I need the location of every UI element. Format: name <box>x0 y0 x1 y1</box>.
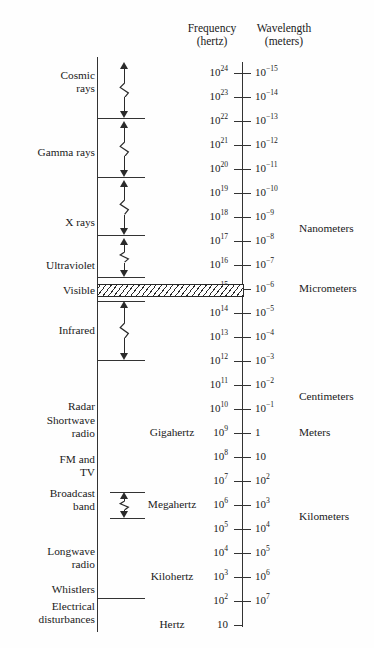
arrow-head-down <box>120 170 128 177</box>
band-separator <box>97 118 145 119</box>
wavelength-tick-label: 10−3 <box>255 354 301 366</box>
frequency-axis-tick <box>234 505 242 506</box>
electromagnetic-spectrum-diagram: Frequency (hertz) Wavelength (meters) 10… <box>0 0 374 648</box>
wavelength-axis-tick <box>243 553 251 554</box>
extent-arrow <box>118 238 131 277</box>
band-separator <box>97 177 145 178</box>
frequency-tick-label: 1019 <box>184 186 228 198</box>
frequency-axis-tick <box>234 265 242 266</box>
wavelength-tick-label: 10 <box>255 450 301 462</box>
frequency-header-unit: (hertz) <box>178 35 246 48</box>
arrow-head-down <box>120 353 128 360</box>
arrow-head-up <box>120 180 128 187</box>
visible-light-band <box>97 284 244 297</box>
frequency-axis-tick <box>234 241 242 242</box>
frequency-tick-label: 1014 <box>184 306 228 318</box>
frequency-unit-gigahertz: Gigahertz <box>131 426 213 438</box>
arrow-head-down <box>120 111 128 118</box>
wavelength-tick-label: 10−1 <box>255 402 301 414</box>
wavelength-tick-label: 102 <box>255 474 301 486</box>
extent-arrow <box>118 180 131 235</box>
frequency-tick-label: 1021 <box>184 138 228 150</box>
wavelength-tick-label: 107 <box>255 594 301 606</box>
wavelength-tick-label: 10−8 <box>255 234 301 246</box>
wavelength-axis-tick <box>243 169 251 170</box>
wavelength-tick-label: 105 <box>255 546 301 558</box>
wavelength-unit-centimeters: Centimeters <box>299 390 354 402</box>
wavelength-tick-label: 10−14 <box>255 90 301 102</box>
frequency-axis-tick <box>234 193 242 194</box>
band-label-cosmic-rays: Cosmicrays <box>60 69 95 94</box>
wavelength-unit-nanometers: Nanometers <box>299 222 354 234</box>
wavelength-axis-tick <box>243 97 251 98</box>
wavelength-tick-label: 10−11 <box>255 162 301 174</box>
band-label-electrical-disturbances: Electricaldisturbances <box>39 600 95 625</box>
extent-arrow <box>118 121 131 177</box>
wavelength-tick-label: 10−12 <box>255 138 301 150</box>
frequency-axis-tick <box>234 97 242 98</box>
wavelength-tick-label: 106 <box>255 570 301 582</box>
frequency-axis-tick <box>234 169 242 170</box>
frequency-tick-label: 1012 <box>184 354 228 366</box>
wavelength-header-label: Wavelength <box>257 22 312 34</box>
wavelength-tick-label: 10−9 <box>255 210 301 222</box>
band-label-radar: Radar <box>68 400 95 413</box>
frequency-tick-label: 1020 <box>184 162 228 174</box>
wavelength-header-unit: (meters) <box>247 35 321 48</box>
wavelength-tick-label: 10−2 <box>255 378 301 390</box>
frequency-tick-label: 1011 <box>184 378 228 390</box>
wavelength-axis-tick <box>243 313 251 314</box>
frequency-unit-megahertz: Megahertz <box>131 498 213 510</box>
frequency-tick-label: 104 <box>184 546 228 558</box>
frequency-axis-tick <box>234 625 242 626</box>
wavelength-axis-tick <box>243 385 251 386</box>
frequency-axis-tick <box>234 433 242 434</box>
frequency-axis-tick <box>234 145 242 146</box>
wavelength-tick-label: 10−4 <box>255 330 301 342</box>
band-separator <box>97 360 145 361</box>
frequency-column-header: Frequency (hertz) <box>178 22 246 48</box>
wavelength-tick-label: 1 <box>255 426 301 438</box>
wavelength-tick-label: 104 <box>255 522 301 534</box>
wavelength-tick-label: 103 <box>255 498 301 510</box>
arrow-head-up <box>120 62 128 69</box>
frequency-axis-tick <box>234 481 242 482</box>
frequency-axis-tick <box>234 313 242 314</box>
frequency-tick-label: 1017 <box>184 234 228 246</box>
arrow-head-up <box>120 492 128 499</box>
frequency-tick-label: 1024 <box>184 66 228 78</box>
wavelength-tick-label: 10−5 <box>255 306 301 318</box>
wavelength-unit-micrometers: Micrometers <box>299 282 357 294</box>
wavelength-axis-tick <box>243 289 251 290</box>
arrow-head-down <box>120 511 128 518</box>
wavelength-axis-tick <box>243 73 251 74</box>
band-label-x-rays: X rays <box>65 216 95 229</box>
wavelength-axis-tick <box>243 145 251 146</box>
band-label-gamma-rays: Gamma rays <box>38 146 95 159</box>
wavelength-axis-tick <box>243 337 251 338</box>
band-label-visible: Visible <box>63 284 95 297</box>
frequency-tick-label: 1013 <box>184 330 228 342</box>
band-column-rule <box>97 57 98 632</box>
frequency-tick-label: 1022 <box>184 114 228 126</box>
band-label-longwave-radio: Longwaveradio <box>47 545 95 570</box>
frequency-tick-label: 102 <box>184 594 228 606</box>
frequency-tick-label: 108 <box>184 450 228 462</box>
frequency-axis-tick <box>234 529 242 530</box>
wavelength-tick-label: 10−6 <box>255 282 301 294</box>
band-label-ultraviolet: Ultraviolet <box>46 259 95 272</box>
frequency-axis-tick <box>234 553 242 554</box>
arrow-head-down <box>120 228 128 235</box>
frequency-tick-label: 1023 <box>184 90 228 102</box>
frequency-tick-label: 1018 <box>184 210 228 222</box>
frequency-unit-kilohertz: Kilohertz <box>131 570 213 582</box>
wavelength-axis-tick <box>243 121 251 122</box>
frequency-axis-tick <box>234 457 242 458</box>
extent-arrow <box>118 62 131 118</box>
arrow-head-up <box>120 238 128 245</box>
frequency-tick-label: 1016 <box>184 258 228 270</box>
band-label-broadcast-band: Broadcastband <box>50 487 95 512</box>
frequency-axis-tick <box>234 601 242 602</box>
frequency-tick-label: 107 <box>184 474 228 486</box>
arrow-head-up <box>120 121 128 128</box>
